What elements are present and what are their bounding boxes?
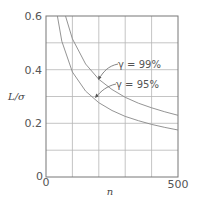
chart: γ = 99% γ = 95% 0.6 0.4 0.2 0 0 500 L/σ … <box>0 0 197 207</box>
y-tick-0.4: 0.4 <box>25 64 43 77</box>
gridlines <box>46 16 178 177</box>
y-tick-0.2: 0.2 <box>25 117 43 130</box>
y-tick-0.6: 0.6 <box>25 10 43 23</box>
y-axis-label: L/σ <box>7 91 26 102</box>
x-tick-0: 0 <box>43 176 50 189</box>
annotation-gamma-95: γ = 95% <box>116 79 159 90</box>
x-tick-500: 500 <box>168 178 189 191</box>
annotation-arrows <box>96 64 118 97</box>
annotation-gamma-99: γ = 99% <box>118 59 161 70</box>
x-axis-label: n <box>107 186 113 197</box>
curve-gamma-95 <box>57 16 178 130</box>
